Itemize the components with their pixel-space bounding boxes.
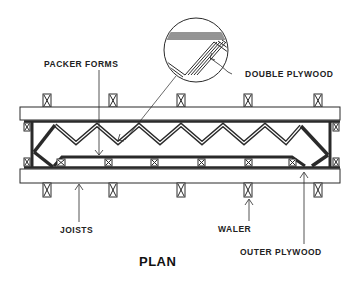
inner-plywood <box>54 157 305 166</box>
plan-drawing <box>0 0 362 286</box>
outer-plywood-label: OUTER PLYWOOD <box>240 247 322 257</box>
bottom-joists <box>43 183 322 197</box>
joists-label: JOISTS <box>60 225 93 235</box>
double-plywood-label: DOUBLE PLYWOOD <box>245 69 333 79</box>
inner-blocks <box>57 159 296 166</box>
top-waler <box>20 107 340 120</box>
bottom-waler <box>20 169 340 183</box>
waler-label: WALER <box>218 224 251 234</box>
plan-title: PLAN <box>139 254 176 269</box>
top-joists <box>43 94 322 107</box>
packer-forms-label: PACKER FORMS <box>44 59 118 69</box>
plan-diagram: PACKER FORMS DOUBLE PLYWOOD JOISTS WALER… <box>0 0 362 286</box>
